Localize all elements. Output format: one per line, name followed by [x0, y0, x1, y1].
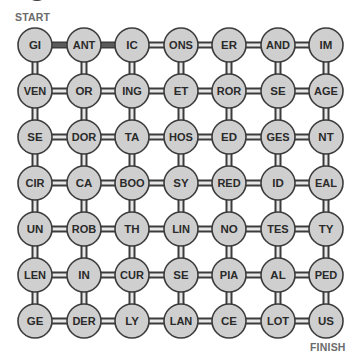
node-syllable: IN	[78, 269, 90, 281]
node-syllable: ED	[221, 131, 237, 143]
finish-label: FINISH	[310, 341, 346, 353]
maze-node[interactable]: CIR	[18, 166, 52, 200]
maze-node[interactable]: LAN	[164, 304, 198, 338]
maze-node[interactable]: IC	[115, 28, 149, 62]
maze-node[interactable]: PED	[309, 258, 343, 292]
maze-node[interactable]: US	[309, 304, 343, 338]
node-syllable: VEN	[24, 85, 47, 97]
node-syllable: EAL	[315, 177, 337, 189]
node-syllable: SE	[173, 269, 189, 281]
node-syllable: US	[318, 315, 334, 327]
node-syllable: GE	[27, 315, 44, 327]
maze-node[interactable]: CE	[212, 304, 246, 338]
maze-node[interactable]: ED	[212, 120, 246, 154]
maze-node[interactable]: EAL	[309, 166, 343, 200]
maze-node[interactable]: LOT	[261, 304, 295, 338]
node-syllable: UN	[27, 223, 44, 235]
maze-node[interactable]: ANT	[67, 28, 101, 62]
node-syllable: SE	[27, 131, 43, 143]
maze-node[interactable]: IN	[67, 258, 101, 292]
node-syllable: BOO	[119, 177, 145, 189]
node-syllable: RED	[217, 177, 240, 189]
maze-node[interactable]: ROR	[212, 74, 246, 108]
maze-node[interactable]: ER	[212, 28, 246, 62]
node-syllable: SY	[173, 177, 189, 189]
maze-node[interactable]: CA	[67, 166, 101, 200]
node-syllable: CA	[76, 177, 93, 189]
maze-node[interactable]: SY	[164, 166, 198, 200]
node-syllable: DOR	[72, 131, 97, 143]
maze-grid: GIANTICONSERANDIMVENORINGETRORSEAGESEDOR…	[0, 0, 359, 362]
maze-node[interactable]: LIN	[164, 212, 198, 246]
maze-node[interactable]: CUR	[115, 258, 149, 292]
node-syllable: ONS	[169, 39, 193, 51]
maze-node[interactable]: OR	[67, 74, 101, 108]
maze-node[interactable]: ET	[164, 74, 198, 108]
node-syllable: LY	[125, 315, 139, 327]
maze-node[interactable]: LEN	[18, 258, 52, 292]
node-syllable: LAN	[170, 315, 193, 327]
node-syllable: ANT	[73, 39, 96, 51]
maze-node[interactable]: SE	[164, 258, 198, 292]
maze-node[interactable]: HOS	[164, 120, 198, 154]
node-syllable: CE	[221, 315, 237, 327]
maze-node[interactable]: SE	[261, 74, 295, 108]
node-syllable: CUR	[120, 269, 144, 281]
node-syllable: ING	[122, 85, 142, 97]
maze-node[interactable]: PIA	[212, 258, 246, 292]
maze-node[interactable]: GE	[18, 304, 52, 338]
node-syllable: IC	[126, 39, 138, 51]
node-syllable: NT	[318, 131, 333, 143]
maze-node[interactable]: NO	[212, 212, 246, 246]
maze-node[interactable]: AL	[261, 258, 295, 292]
node-syllable: PIA	[220, 269, 238, 281]
node-syllable: IM	[320, 39, 333, 51]
maze-node[interactable]: ONS	[164, 28, 198, 62]
node-syllable: HOS	[169, 131, 193, 143]
node-syllable: LOT	[267, 315, 289, 327]
node-syllable: ID	[272, 177, 284, 189]
node-syllable: AND	[266, 39, 290, 51]
maze-node[interactable]: ING	[115, 74, 149, 108]
maze-node[interactable]: GI	[18, 28, 52, 62]
maze-node[interactable]: RED	[212, 166, 246, 200]
maze-node[interactable]: TES	[261, 212, 295, 246]
maze-node[interactable]: AGE	[309, 74, 343, 108]
nodes: GIANTICONSERANDIMVENORINGETRORSEAGESEDOR…	[18, 28, 343, 338]
node-syllable: ER	[221, 39, 238, 51]
node-syllable: ROR	[217, 85, 242, 97]
maze-node[interactable]: TA	[115, 120, 149, 154]
maze-node[interactable]: IM	[309, 28, 343, 62]
node-syllable: PED	[315, 269, 338, 281]
node-syllable: ET	[174, 85, 189, 97]
node-syllable: TA	[125, 131, 139, 143]
maze-node[interactable]: AND	[261, 28, 295, 62]
maze-node[interactable]: GES	[261, 120, 295, 154]
maze-node[interactable]: ID	[261, 166, 295, 200]
maze-node[interactable]: LY	[115, 304, 149, 338]
maze-node[interactable]: NT	[309, 120, 343, 154]
node-syllable: AGE	[314, 85, 338, 97]
maze-node[interactable]: VEN	[18, 74, 52, 108]
maze-node[interactable]: DOR	[67, 120, 101, 154]
maze-node[interactable]: BOO	[115, 166, 149, 200]
node-syllable: LIN	[172, 223, 190, 235]
node-syllable: LEN	[24, 269, 46, 281]
node-syllable: DER	[72, 315, 95, 327]
maze-node[interactable]: ROB	[67, 212, 101, 246]
maze-node[interactable]: UN	[18, 212, 52, 246]
node-syllable: GES	[266, 131, 289, 143]
maze-node[interactable]: SE	[18, 120, 52, 154]
node-syllable: AL	[270, 269, 285, 281]
node-syllable: OR	[75, 85, 93, 97]
node-syllable: ROB	[72, 223, 97, 235]
node-syllable: CIR	[26, 177, 45, 189]
maze-node[interactable]: TH	[115, 212, 149, 246]
maze-node[interactable]: TY	[309, 212, 343, 246]
word-maze-puzzle: START GIANTICONSERANDIMVENORINGETRORSEAG…	[0, 0, 359, 362]
maze-node[interactable]: DER	[67, 304, 101, 338]
node-syllable: TY	[319, 223, 334, 235]
node-syllable: TH	[124, 223, 139, 235]
node-syllable: TES	[267, 223, 288, 235]
node-syllable: GI	[29, 39, 41, 51]
